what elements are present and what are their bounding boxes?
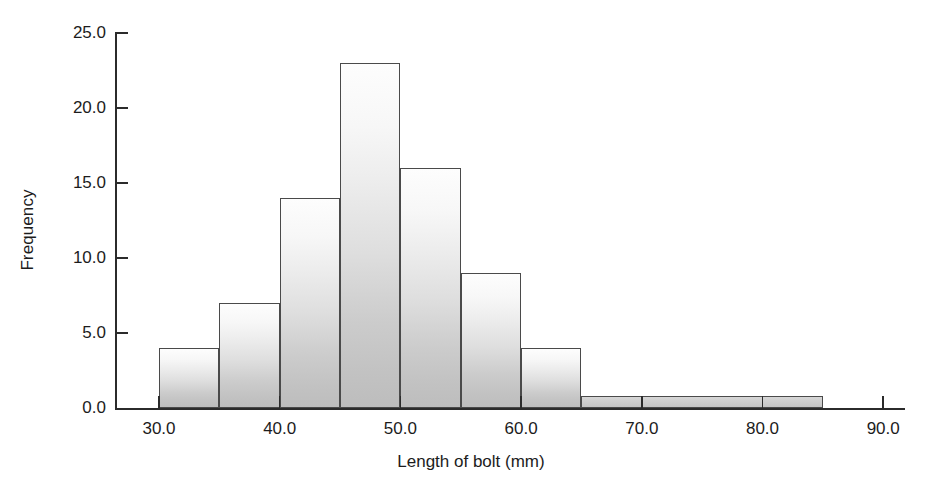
x-axis-line <box>115 408 905 410</box>
histogram-bar <box>461 273 521 408</box>
x-tick-label: 40.0 <box>240 420 320 437</box>
x-tick-mark <box>762 396 764 408</box>
x-axis-label: Length of bolt (mm) <box>0 452 942 472</box>
histogram-bar <box>219 303 279 408</box>
y-tick-label: 5.0 <box>34 324 106 341</box>
y-axis-line <box>115 33 117 409</box>
histogram-figure: Frequency 0.05.010.015.020.025.030.040.0… <box>0 0 942 492</box>
x-tick-mark <box>641 396 643 408</box>
y-tick-label: 10.0 <box>34 249 106 266</box>
histogram-bar <box>521 348 581 408</box>
y-tick-mark <box>115 182 128 184</box>
x-tick-mark <box>520 396 522 408</box>
x-tick-mark <box>882 396 884 408</box>
x-tick-mark <box>158 396 160 408</box>
histogram-bar <box>581 396 822 408</box>
x-tick-label: 50.0 <box>360 420 440 437</box>
x-tick-label: 90.0 <box>843 420 923 437</box>
x-tick-label: 60.0 <box>481 420 561 437</box>
histogram-bar <box>400 168 460 408</box>
x-tick-label: 30.0 <box>119 420 199 437</box>
histogram-bar <box>340 63 400 408</box>
y-tick-mark <box>115 107 128 109</box>
histogram-bar <box>159 348 219 408</box>
x-tick-mark <box>400 396 402 408</box>
x-tick-label: 70.0 <box>602 420 682 437</box>
y-tick-mark <box>115 257 128 259</box>
y-tick-label: 25.0 <box>34 24 106 41</box>
y-tick-label: 20.0 <box>34 99 106 116</box>
y-tick-label: 0.0 <box>34 399 106 416</box>
x-tick-mark <box>279 396 281 408</box>
y-tick-mark <box>115 32 128 34</box>
y-tick-mark <box>115 332 128 334</box>
histogram-bar <box>280 198 340 408</box>
y-tick-label: 15.0 <box>34 174 106 191</box>
plot-area: 0.05.010.015.020.025.030.040.050.060.070… <box>0 0 942 492</box>
x-tick-label: 80.0 <box>723 420 803 437</box>
